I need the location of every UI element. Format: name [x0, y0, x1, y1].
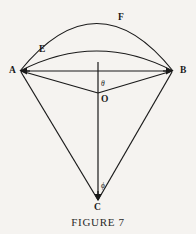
- segment-AO: [21, 71, 98, 93]
- angle-label-theta: θ: [101, 80, 105, 88]
- segment-BC: [98, 72, 172, 200]
- segment-BO: [98, 71, 172, 93]
- arc-label-f: F: [118, 13, 124, 23]
- segment-AC: [21, 72, 98, 200]
- vertex-label-a: A: [9, 66, 16, 76]
- vertex-label-o: O: [101, 95, 108, 105]
- vertex-label-c: C: [94, 203, 101, 213]
- angle-label-phi: ϕ: [101, 182, 105, 190]
- vertex-label-b: B: [180, 66, 186, 76]
- arc-label-e: E: [39, 45, 45, 55]
- figure-caption: FIGURE 7: [0, 216, 196, 228]
- figure-container: A B E F O C θ ϕ FIGURE 7: [0, 0, 196, 234]
- geometry-diagram: [0, 0, 196, 234]
